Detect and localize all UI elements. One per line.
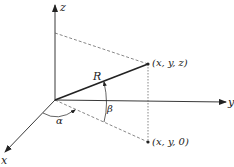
beta-label: β — [106, 103, 113, 114]
y-axis — [55, 100, 226, 102]
z-axis-label: z — [59, 1, 66, 14]
z-projection-dashed-line — [55, 33, 148, 64]
xy-projection-dashed-line — [55, 100, 148, 142]
y-axis-label: y — [227, 96, 234, 109]
spherical-coordinates-diagram: z y x R α β (x, y, z) (x, y, 0) — [0, 0, 234, 167]
alpha-label: α — [56, 115, 63, 126]
x-axis-label: x — [1, 154, 8, 167]
point-xy0 — [146, 140, 149, 143]
x-axis — [5, 100, 55, 152]
point-xy0-label: (x, y, 0) — [152, 136, 189, 147]
point-xyz — [146, 62, 149, 65]
point-xyz-label: (x, y, z) — [152, 57, 188, 68]
beta-arc — [104, 82, 107, 122]
r-vector — [55, 64, 148, 100]
r-label: R — [92, 70, 101, 83]
